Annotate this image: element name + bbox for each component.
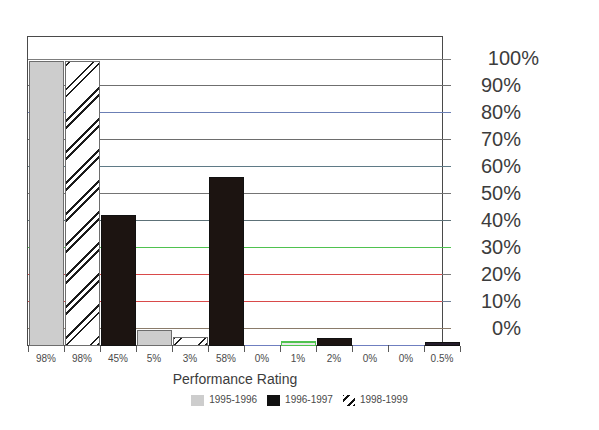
bar-45-1996-1997[interactable] [101,215,136,346]
bar-5-1995-1996[interactable] [137,330,172,346]
bar-3-1998-1999[interactable] [173,337,208,346]
x-axis-labels: 98% 98% 45% 5% 3% 58% 0% 1% 2% 0% 0% 0.5… [27,352,443,368]
x-label-9: 0% [352,352,388,366]
x-label-10: 0% [388,352,424,366]
bar-98-1998-1999[interactable] [65,61,100,346]
legend-item-1995-1996[interactable]: 1995-1996 [191,394,257,406]
y-label-40: 40% [449,210,521,230]
x-tick [460,346,461,352]
y-label-80: 80% [449,102,521,122]
legend-label-1996-1997: 1996-1997 [285,394,333,406]
chart-legend: 1995-1996 1996-1997 1998-1999 [0,394,599,406]
legend-swatch-gray-icon [191,395,204,406]
x-label-4: 3% [172,352,208,366]
bar-98-1995-1996[interactable] [29,61,64,346]
bars-layer [27,36,443,346]
x-label-3: 5% [136,352,172,366]
y-label-60: 60% [449,156,521,176]
x-label-11: 0.5% [424,352,460,366]
y-label-90: 90% [449,75,521,95]
x-label-0: 98% [28,352,64,366]
x-label-1: 98% [64,352,100,366]
x-label-2: 45% [100,352,136,366]
bar-2-1996-1997[interactable] [317,338,352,346]
y-label-30: 30% [449,237,521,257]
x-label-6: 0% [244,352,280,366]
y-label-20: 20% [449,264,521,284]
y-axis-labels: 100% 90% 80% 70% 60% 50% 40% 30% 20% 10%… [449,36,539,346]
legend-label-1995-1996: 1995-1996 [209,394,257,406]
x-label-5: 58% [208,352,244,366]
performance-rating-bar-chart: 98% 98% 45% 5% 3% 58% 0% 1% 2% 0% 0% 0.5… [0,0,599,430]
y-label-0: 0% [449,318,521,338]
bar-cap-1pct [281,341,316,343]
legend-swatch-black-icon [267,395,280,406]
x-axis-title: Performance Rating [27,370,443,388]
x-label-7: 1% [280,352,316,366]
x-label-8: 2% [316,352,352,366]
y-label-70: 70% [449,129,521,149]
legend-label-1998-1999: 1998-1999 [360,394,408,406]
y-label-100: 100% [449,48,539,68]
legend-swatch-hatch-icon [343,395,355,406]
y-label-50: 50% [449,183,521,203]
legend-item-1996-1997[interactable]: 1996-1997 [267,394,333,406]
legend-item-1998-1999[interactable]: 1998-1999 [343,394,408,406]
y-label-10: 10% [449,291,521,311]
bar-58-1996-1997[interactable] [209,177,244,346]
